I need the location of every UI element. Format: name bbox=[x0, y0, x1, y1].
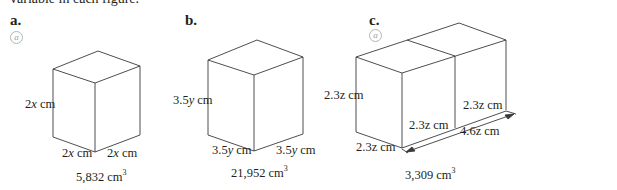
prism-c-depth-label: 2.3z cm bbox=[356, 140, 396, 155]
prism-c-back-height-label: 2.3z cm bbox=[463, 98, 503, 113]
cube-a-height-label: 2x cm bbox=[25, 97, 55, 112]
cube-b-volume: 21,952 cm3 bbox=[231, 166, 288, 181]
prism-c-length-label: 4.6z cm bbox=[460, 124, 500, 139]
cube-b-height-label: 3.5y cm bbox=[173, 93, 213, 108]
figures-drawing bbox=[0, 0, 617, 190]
cube-b bbox=[208, 40, 303, 151]
cube-b-width-label: 3.5y cm bbox=[276, 143, 316, 158]
cube-a-depth-label: 2x cm bbox=[62, 146, 92, 161]
cube-a-volume: 5,832 cm3 bbox=[76, 170, 127, 185]
prism-c-inner-height-label: 2.3z cm bbox=[409, 118, 449, 133]
prism-c-height-label: 2.3z cm bbox=[324, 88, 364, 103]
cube-a bbox=[53, 51, 140, 152]
prism-c-volume: 3,309 cm3 bbox=[405, 168, 456, 183]
cube-b-depth-label: 3.5y cm bbox=[212, 143, 252, 158]
cube-a-width-label: 2x cm bbox=[107, 146, 137, 161]
